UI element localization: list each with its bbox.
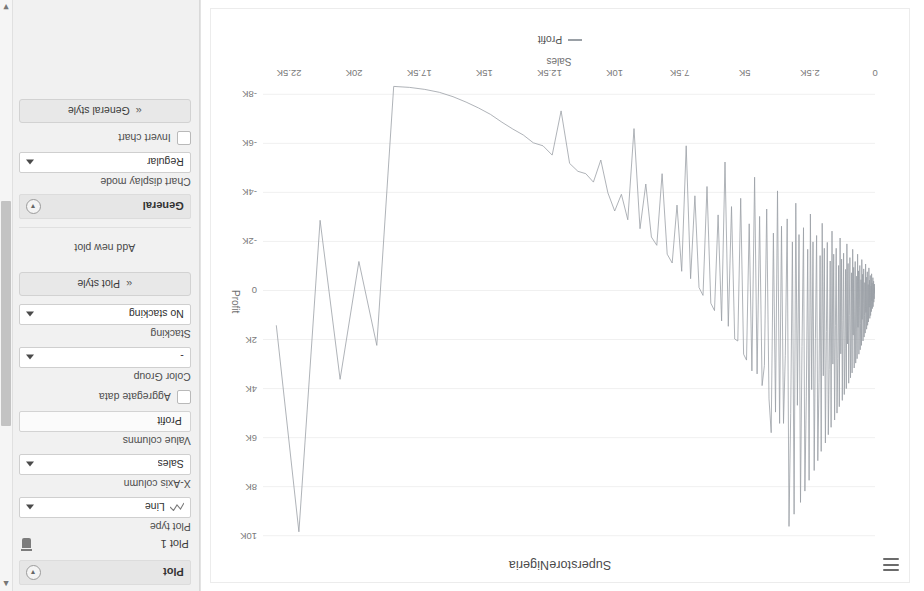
- series-line-profit: [276, 86, 875, 531]
- field-color-group: Color Group -: [19, 347, 191, 383]
- caret-down-icon[interactable]: ▼: [0, 0, 12, 14]
- label-value-columns: Value columns: [19, 435, 191, 447]
- y-tick-label: 10K: [240, 530, 257, 541]
- section-title-general: General: [143, 201, 184, 213]
- value-columns-input[interactable]: Profit: [19, 411, 191, 432]
- x-tick-label: 2.5K: [800, 68, 820, 79]
- chart-area: SuperstoreNigeria 02.5K5K7.5K10K12.5K15K…: [200, 0, 924, 591]
- y-tick-label: 0: [252, 285, 257, 296]
- page-title: SuperstoreNigeria: [237, 558, 883, 572]
- chart-display-mode-value: Regular: [147, 157, 184, 169]
- chart-builder-app: SuperstoreNigeria 02.5K5K7.5K10K12.5K15K…: [0, 0, 924, 591]
- aggregate-data-row[interactable]: Aggregate data: [19, 390, 191, 404]
- y-tick-label: -4K: [242, 187, 257, 198]
- plot-style-button[interactable]: « Plot style: [19, 272, 191, 296]
- invert-chart-checkbox[interactable]: [177, 131, 191, 145]
- y-tick-label: 4K: [245, 383, 257, 394]
- plot-style-button-label: Plot style: [77, 278, 120, 290]
- chart-legend: Profit: [211, 34, 909, 46]
- label-color-group: Color Group: [19, 371, 191, 383]
- x-tick-label: 17.5K: [407, 68, 432, 79]
- color-group-select[interactable]: -: [19, 347, 191, 368]
- panel-scrollbar[interactable]: ▲ ▼: [0, 0, 13, 591]
- label-plot-type: Plot type: [19, 521, 191, 533]
- plot-canvas: [263, 82, 875, 548]
- y-tick-label: 2K: [245, 334, 257, 345]
- x-tick-label: 20K: [346, 68, 363, 79]
- legend-swatch-profit: [568, 39, 582, 41]
- y-tick-label: -2K: [242, 236, 257, 247]
- y-axis-title: Profit: [230, 290, 241, 313]
- chevron-down-icon[interactable]: ▾: [26, 565, 41, 580]
- y-tick-label: 6K: [245, 432, 257, 443]
- x-tick-label: 0: [872, 68, 877, 79]
- field-x-axis-column: X-Axis column Sales: [19, 454, 191, 490]
- x-tick-label: 12.5K: [537, 68, 562, 79]
- x-axis-title: Sales: [209, 56, 909, 67]
- field-chart-display-mode: Chart display mode Regular: [19, 152, 191, 188]
- double-chevron-left-icon: «: [136, 106, 142, 117]
- section-title-plot: Plot: [163, 567, 184, 579]
- hamburger-icon[interactable]: [883, 559, 899, 572]
- plot-item-label: Plot 1: [161, 539, 189, 551]
- field-value-columns: Value columns Profit: [19, 411, 191, 447]
- aggregate-data-checkbox[interactable]: [177, 390, 191, 404]
- plot-item-row[interactable]: Plot 1: [19, 533, 191, 554]
- general-style-button-label: General style: [68, 105, 130, 117]
- stacking-value: No stacking: [129, 309, 184, 321]
- x-tick-label: 10K: [606, 68, 623, 79]
- x-axis-column-select[interactable]: Sales: [19, 454, 191, 475]
- rotated-screenshot-wrapper: SuperstoreNigeria 02.5K5K7.5K10K12.5K15K…: [0, 0, 924, 591]
- caret-up-icon: [26, 312, 34, 317]
- x-tick-label: 7.5K: [670, 68, 690, 79]
- section-header-plot[interactable]: Plot ▾: [19, 560, 191, 585]
- add-new-plot-button[interactable]: Add new plot: [19, 230, 191, 262]
- caret-up-icon: [26, 462, 34, 467]
- y-tick-label: -8K: [242, 89, 257, 100]
- stacking-select[interactable]: No stacking: [19, 304, 191, 325]
- label-chart-display-mode: Chart display mode: [19, 176, 191, 188]
- x-tick-label: 22.5K: [277, 68, 302, 79]
- section-header-general[interactable]: General ▾: [19, 194, 191, 219]
- plot-type-select[interactable]: Line: [19, 497, 191, 518]
- label-x-axis-column: X-Axis column: [19, 478, 191, 490]
- divider: [19, 227, 191, 228]
- caret-up-icon: [26, 160, 34, 165]
- chart-display-mode-select[interactable]: Regular: [19, 152, 191, 173]
- invert-chart-row[interactable]: Invert chart: [19, 131, 191, 145]
- invert-chart-label: Invert chart: [118, 132, 171, 144]
- aggregate-data-label: Aggregate data: [99, 391, 171, 403]
- caret-up-icon: [26, 505, 34, 510]
- scrollbar-thumb[interactable]: [1, 201, 11, 426]
- general-style-button[interactable]: « General style: [19, 99, 191, 123]
- plot-type-value: Line: [145, 502, 165, 514]
- chart-card: SuperstoreNigeria 02.5K5K7.5K10K12.5K15K…: [210, 8, 910, 583]
- value-column-chip[interactable]: Profit: [153, 415, 186, 429]
- x-tick-label: 15K: [476, 68, 493, 79]
- color-group-value: -: [180, 352, 184, 364]
- chevron-down-icon[interactable]: ▾: [26, 199, 41, 214]
- line-chart-icon: [170, 503, 184, 512]
- x-tick-label: 5K: [739, 68, 751, 79]
- trash-icon[interactable]: [21, 538, 32, 551]
- label-stacking: Stacking: [19, 328, 191, 340]
- x-axis-column-value: Sales: [158, 459, 184, 471]
- chart-header: SuperstoreNigeria: [211, 548, 909, 582]
- field-stacking: Stacking No stacking: [19, 304, 191, 340]
- caret-up-icon: [26, 355, 34, 360]
- settings-panel-body: Plot ▾ Plot 1 Plot type Line X-Axis colu: [11, 0, 199, 591]
- line-chart-svg: [263, 82, 875, 548]
- field-plot-type: Plot type Line: [19, 497, 191, 533]
- legend-label-profit: Profit: [538, 34, 563, 46]
- y-tick-label: 8K: [245, 481, 257, 492]
- caret-up-icon[interactable]: ▲: [0, 577, 12, 591]
- y-tick-label: -6K: [242, 138, 257, 149]
- settings-panel: Plot ▾ Plot 1 Plot type Line X-Axis colu: [0, 0, 200, 591]
- double-chevron-left-icon: «: [126, 279, 132, 290]
